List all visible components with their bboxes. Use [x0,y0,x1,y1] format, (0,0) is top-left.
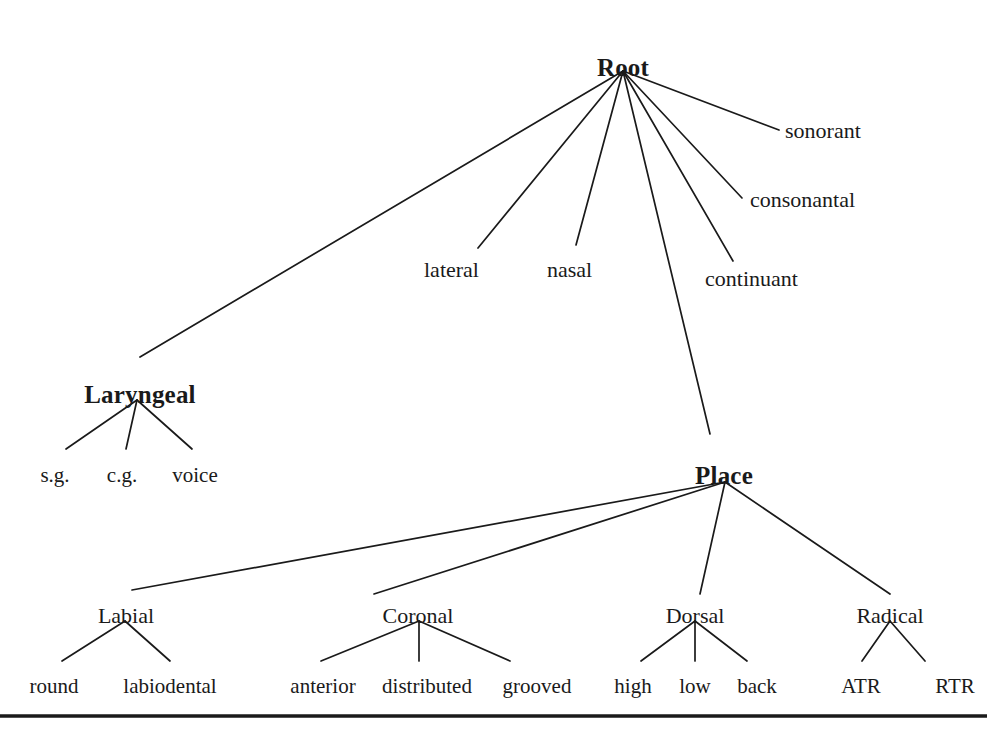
node-continuant: continuant [705,268,798,290]
edge-root-to-laryngeal [140,71,623,357]
node-high: high [614,676,651,697]
node-sg: s.g. [40,465,69,486]
edge-root-to-nasal [576,71,623,245]
edge-root-to-consonantal [623,71,742,198]
edge-place-to-radical [725,482,890,594]
node-consonantal: consonantal [750,189,855,211]
node-dorsal: Dorsal [666,605,725,627]
node-laryngeal: Laryngeal [84,382,196,407]
node-radical: Radical [856,605,923,627]
edge-place-to-dorsal [700,482,725,594]
node-round: round [30,676,79,697]
node-labial: Labial [98,605,154,627]
edge-root-to-continuant [623,71,733,261]
node-lateral: lateral [424,259,479,281]
feature-geometry-diagram: Root Laryngeal Place sonorant consonanta… [0,0,993,732]
node-grooved: grooved [503,676,572,697]
node-anterior: anterior [290,676,355,697]
node-cg: c.g. [107,465,137,486]
node-atr: ATR [841,676,881,697]
node-coronal: Coronal [383,605,454,627]
node-distributed: distributed [382,676,472,697]
node-labiodental: labiodental [123,676,216,697]
node-rtr: RTR [935,676,975,697]
edge-place-to-coronal [374,482,725,594]
node-back: back [737,676,777,697]
node-root: Root [597,55,649,80]
node-low: low [679,676,711,697]
edge-root-to-place [623,71,710,434]
node-voice: voice [172,465,217,486]
edge-root-to-lateral [478,71,623,248]
node-sonorant: sonorant [785,120,861,142]
node-nasal: nasal [547,259,592,281]
node-place: Place [695,463,753,488]
edge-place-to-labial [132,482,725,590]
